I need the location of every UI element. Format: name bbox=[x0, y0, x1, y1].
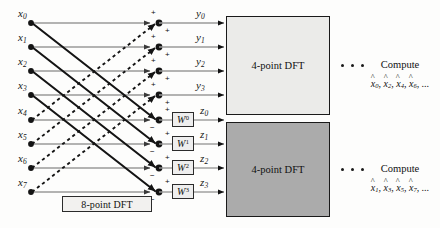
output-label-z2: z2 bbox=[200, 153, 208, 165]
node-sign-bottom-1: + bbox=[165, 51, 170, 59]
node-sign-top-1: + bbox=[151, 33, 156, 41]
output-label-z3: z3 bbox=[200, 177, 208, 189]
node-sign-top-6: + bbox=[165, 154, 170, 162]
twiddle-box-w0[interactable]: W0 bbox=[172, 112, 194, 127]
node-sign-top-2: + bbox=[151, 57, 156, 65]
node-sign-bottom-2: + bbox=[165, 75, 170, 83]
compute-heading-bottom: Compute bbox=[362, 164, 438, 175]
input-label-x0: x0 bbox=[18, 8, 27, 20]
compute-heading-top: Compute bbox=[362, 60, 438, 71]
output-label-z0: z0 bbox=[200, 105, 208, 117]
four-point-dft-block-bottom[interactable]: 4-point DFT bbox=[226, 122, 330, 217]
output-label-y3: y3 bbox=[196, 80, 205, 92]
four-point-dft-block-top[interactable]: 4-point DFT bbox=[226, 16, 330, 115]
four-point-dft-label-bottom: 4-point DFT bbox=[252, 164, 305, 175]
output-label-y2: y2 bbox=[196, 56, 205, 68]
input-label-x1: x1 bbox=[18, 32, 27, 44]
output-label-y0: y0 bbox=[196, 8, 205, 20]
compute-terms-top: x0, x2, x4, x6, ... bbox=[362, 79, 438, 90]
compute-terms-bottom: x1, x3, x5, x7, ... bbox=[362, 183, 438, 194]
input-label-x3: x3 bbox=[18, 80, 27, 92]
twiddle-box-w2[interactable]: W2 bbox=[172, 160, 194, 175]
compute-caption-bottom: Compute x1, x3, x5, x7, ... bbox=[362, 164, 438, 193]
output-label-y1: y1 bbox=[196, 32, 205, 44]
fft-diagram: x0 x1 x2 x3 x4 x5 x6 x7 + + + + + + + + … bbox=[0, 0, 440, 228]
input-label-x7: x7 bbox=[18, 177, 27, 189]
output-label-z1: z1 bbox=[200, 129, 208, 141]
twiddle-box-w3[interactable]: W3 bbox=[172, 184, 194, 199]
four-point-dft-label-top: 4-point DFT bbox=[252, 60, 305, 71]
node-sign-top-4: + bbox=[165, 106, 170, 114]
signal-flow-wires bbox=[0, 0, 440, 228]
node-sign-top-7: + bbox=[165, 178, 170, 186]
node-sign-bottom-5: − bbox=[150, 148, 155, 156]
node-sign-top-3: + bbox=[151, 81, 156, 89]
ellipsis-dots-bottom bbox=[341, 168, 364, 171]
input-label-x4: x4 bbox=[18, 105, 27, 117]
node-sign-top-0: + bbox=[151, 9, 156, 17]
input-label-x2: x2 bbox=[18, 56, 27, 68]
node-sign-bottom-4: − bbox=[150, 124, 155, 132]
compute-caption-top: Compute x0, x2, x4, x6, ... bbox=[362, 60, 438, 89]
eight-point-dft-caption: 8-point DFT bbox=[62, 196, 152, 212]
node-sign-top-5: + bbox=[165, 130, 170, 138]
input-label-x6: x6 bbox=[18, 153, 27, 165]
ellipsis-dots-top bbox=[341, 64, 364, 67]
node-sign-bottom-6: − bbox=[150, 172, 155, 180]
input-label-x5: x5 bbox=[18, 129, 27, 141]
node-sign-bottom-0: + bbox=[165, 27, 170, 35]
twiddle-box-w1[interactable]: W1 bbox=[172, 136, 194, 151]
